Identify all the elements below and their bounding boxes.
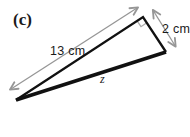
side-label-13cm: 13 cm (50, 44, 86, 58)
side-label-z: z (99, 72, 105, 86)
geometry-figure: (c) 13 cm 2 cm z (0, 0, 190, 137)
triangle-side-bottom (16, 52, 166, 100)
triangle-diagram: (c) 13 cm 2 cm z (0, 0, 190, 137)
figure-label: (c) (13, 10, 32, 29)
side-label-2cm: 2 cm (162, 22, 190, 36)
